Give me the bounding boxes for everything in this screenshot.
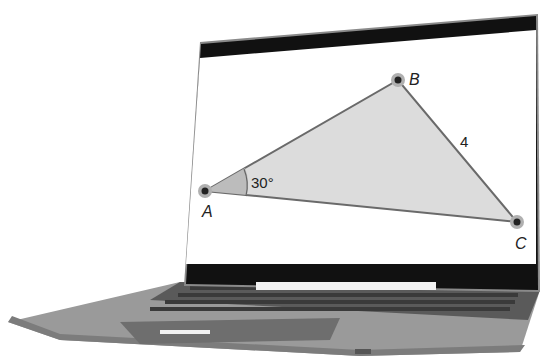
label-b: B bbox=[409, 71, 420, 88]
label-c: C bbox=[515, 235, 527, 252]
laptop-illustration: A B C 30° 4 bbox=[0, 0, 555, 356]
vent bbox=[355, 349, 371, 354]
vertex-a bbox=[198, 184, 212, 198]
laptop-base bbox=[8, 282, 540, 356]
trackpad-highlight bbox=[160, 330, 210, 334]
label-a: A bbox=[201, 203, 213, 220]
vertex-c bbox=[510, 215, 524, 229]
trackpad bbox=[120, 318, 340, 344]
hinge-highlight bbox=[256, 282, 436, 290]
vertex-b bbox=[391, 73, 405, 87]
side-bc-label: 4 bbox=[460, 133, 468, 150]
angle-label: 30° bbox=[251, 174, 274, 191]
